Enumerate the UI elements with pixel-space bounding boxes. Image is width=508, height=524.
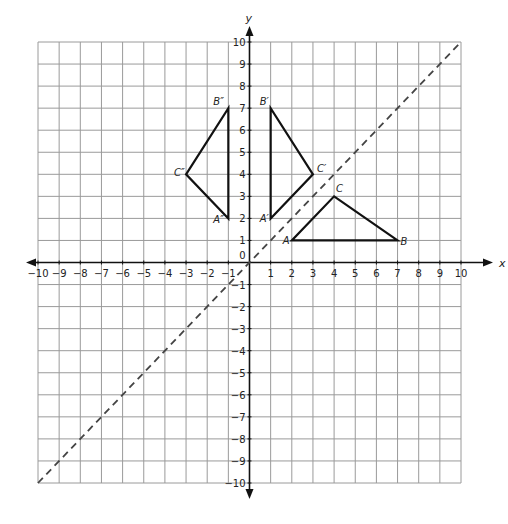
coordinate-plane: xy −10−9−8−7−6−5−4−3−2−112345678910−10−9… [0,0,508,524]
y-tick-label: −2 [231,302,246,313]
y-tick-label: 8 [239,81,245,92]
y-tick-label: 10 [233,37,246,48]
vertex-label: A″ [212,214,224,225]
y-tick-label: 1 [239,235,245,246]
x-tick-label: 6 [373,268,379,279]
axes: xy [26,12,506,499]
x-tick-label: 9 [437,268,443,279]
x-tick-label: −5 [136,268,151,279]
y-tick-label: 5 [239,147,245,158]
y-tick-label: −9 [231,456,246,467]
y-tick-label: −6 [231,390,246,401]
y-tick-label: −7 [231,412,246,423]
origin-label: 0 [239,250,245,261]
x-tick-label: −4 [158,268,173,279]
x-tick-label: 4 [331,268,337,279]
x-axis-right-arrow-icon [483,259,493,267]
vertex-label: B [401,236,408,247]
x-tick-label: 2 [289,268,295,279]
x-tick-label: −3 [179,268,194,279]
x-tick-label: 3 [310,268,316,279]
x-tick-label: −9 [52,268,67,279]
y-tick-label: −3 [231,324,246,335]
x-tick-label: −2 [200,268,215,279]
vertex-label: B′ [260,96,270,107]
y-axis-label: y [245,12,253,25]
y-tick-label: 3 [239,191,245,202]
x-axis-label: x [498,257,506,270]
x-tick-label: −7 [94,268,109,279]
coordinate-plane-svg: xy −10−9−8−7−6−5−4−3−2−112345678910−10−9… [0,0,508,524]
x-tick-label: 7 [394,268,400,279]
x-tick-label: 5 [352,268,358,279]
y-tick-label: −1 [231,280,246,291]
x-tick-label: −8 [73,268,88,279]
vertex-label: A′ [259,213,270,224]
vertex-label: C [336,183,343,194]
y-axis-down-arrow-icon [246,489,254,499]
vertex-label: C″ [174,167,185,178]
y-tick-label: 6 [239,125,245,136]
y-tick-label: 7 [239,103,245,114]
x-tick-label: −6 [115,268,130,279]
x-axis-left-arrow-icon [26,259,36,267]
vertex-labels: ABCA′B′C′A″B″C″ [174,96,407,247]
y-axis-up-arrow-icon [246,26,254,36]
y-tick-label: −8 [231,434,246,445]
x-tick-label: −1 [221,268,236,279]
x-tick-label: 8 [416,268,422,279]
vertex-label: A [282,235,290,246]
y-tick-label: 4 [239,169,245,180]
y-tick-label: 2 [239,213,245,224]
x-tick-label: 1 [267,268,273,279]
y-tick-label: −4 [231,346,246,357]
x-tick-label: −10 [27,268,48,279]
x-tick-label: 10 [455,268,468,279]
vertex-label: B″ [213,96,224,107]
y-tick-label: −10 [224,478,245,489]
y-tick-label: −5 [231,368,246,379]
vertex-label: C′ [317,163,327,174]
y-tick-label: 9 [239,59,245,70]
